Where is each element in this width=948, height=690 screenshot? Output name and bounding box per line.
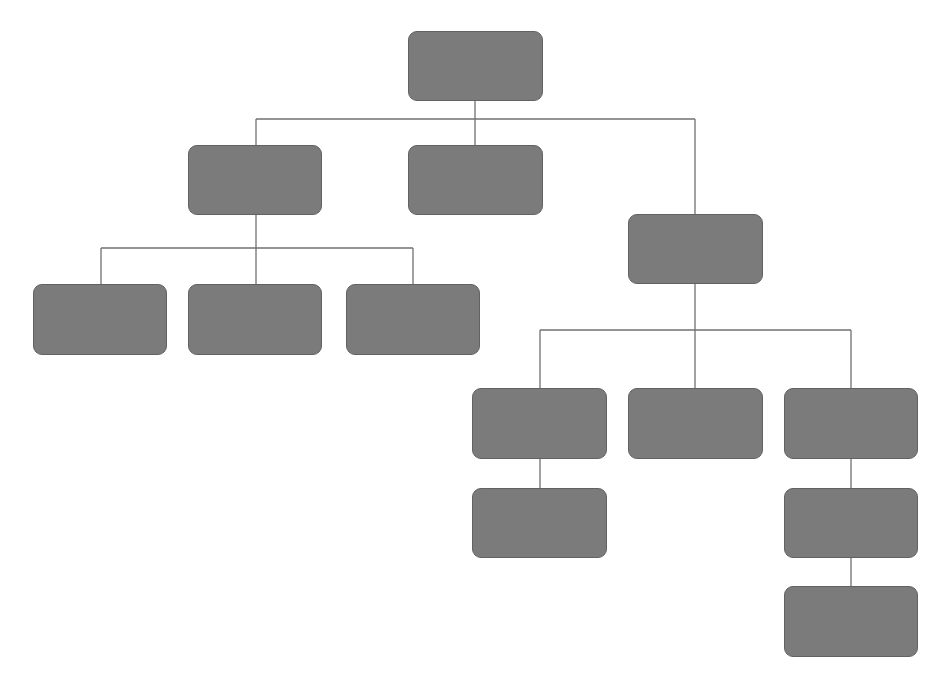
org-node-n3: [408, 145, 543, 215]
org-node-n4: [628, 214, 763, 284]
org-node-n8: [472, 388, 607, 459]
org-node-n2: [188, 145, 322, 215]
org-node-n12: [784, 488, 918, 558]
org-node-n11: [472, 488, 607, 558]
org-node-n10: [784, 388, 918, 459]
org-chart-canvas: [0, 0, 948, 690]
org-node-n6: [188, 284, 322, 355]
org-node-n9: [628, 388, 763, 459]
org-node-n1: [408, 31, 543, 101]
org-node-n7: [346, 284, 480, 355]
org-node-n5: [33, 284, 167, 355]
org-node-n13: [784, 586, 918, 657]
